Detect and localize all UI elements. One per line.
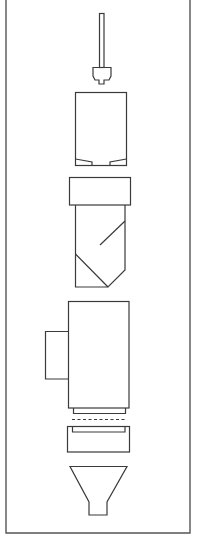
cartridge: [70, 178, 131, 288]
upper-chamber-body: [76, 93, 127, 166]
plunger: [93, 14, 111, 85]
assembly-diagram: [0, 0, 199, 535]
left-wedge: [76, 159, 93, 166]
right-wedge: [110, 159, 127, 166]
funnel: [70, 467, 127, 516]
tray-outer: [68, 427, 130, 453]
cartridge-body: [76, 205, 126, 287]
main-body-flange: [74, 408, 126, 414]
cartridge-inner-diagonal: [100, 221, 125, 245]
main-body: [46, 302, 130, 414]
plunger-tip: [93, 68, 111, 85]
tray: [68, 427, 130, 453]
plunger-rod: [100, 14, 105, 68]
main-body-side-box: [46, 332, 69, 380]
tray-inner-rim: [73, 427, 126, 433]
main-body-housing: [69, 302, 130, 409]
upper-chamber: [76, 93, 127, 166]
cartridge-cap: [70, 178, 131, 206]
cartridge-bottom-diagonal: [76, 254, 109, 287]
